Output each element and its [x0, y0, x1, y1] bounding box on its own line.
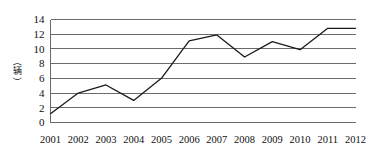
x-axis-tick-label: 2005	[151, 134, 172, 145]
x-axis-tick-label: 2007	[206, 134, 227, 145]
x-axis-tick-label: 2002	[68, 134, 89, 145]
y-axis-tick-label: 4	[39, 87, 45, 99]
y-axis-title-char: ）	[12, 77, 22, 86]
y-axis-title: （辆）	[12, 57, 22, 86]
x-axis-tick-label: 2003	[95, 134, 116, 145]
x-axis-tick-label: 2004	[123, 134, 145, 145]
x-axis-tick-label: 2001	[40, 134, 61, 145]
y-axis-tick-label: 8	[39, 57, 45, 69]
x-axis-tick-label: 2010	[290, 134, 311, 145]
x-axis-tick-label: 2012	[345, 134, 366, 145]
y-axis-title-char: 辆	[13, 65, 22, 76]
y-axis-tick-label: 0	[39, 116, 45, 128]
line-chart: 02468101214 2001200220032004200520062007…	[0, 0, 367, 156]
x-axis-tick-label: 2008	[234, 134, 255, 145]
x-axis-tick-label: 2009	[262, 134, 283, 145]
y-axis-tick-label: 14	[34, 13, 46, 25]
y-axis-tick-label: 2	[39, 102, 45, 114]
x-axis-tick-label: 2006	[179, 134, 200, 145]
y-axis-tick-label: 10	[34, 43, 46, 55]
y-axis-tick-label: 6	[39, 72, 45, 84]
y-axis-title-char: （	[12, 57, 22, 66]
chart-canvas: 02468101214 2001200220032004200520062007…	[0, 0, 367, 156]
x-axis-tick-label: 2011	[317, 134, 338, 145]
y-axis-tick-label: 12	[34, 28, 45, 40]
